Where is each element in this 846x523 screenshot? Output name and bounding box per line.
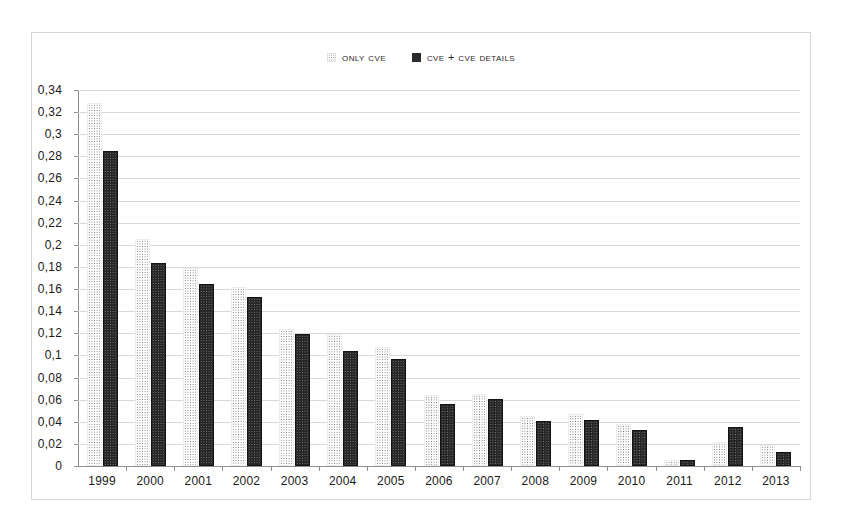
bar bbox=[151, 263, 166, 466]
y-axis-tick-label: 0,02 bbox=[2, 437, 62, 451]
x-axis-tick bbox=[704, 466, 705, 471]
bar bbox=[247, 297, 262, 466]
y-axis-tick-label: 0,18 bbox=[2, 260, 62, 274]
filled-square-icon bbox=[412, 53, 421, 62]
x-axis-tick bbox=[271, 466, 272, 471]
bar bbox=[343, 351, 358, 466]
x-axis-tick-label: 2012 bbox=[714, 474, 742, 488]
x-axis-tick bbox=[800, 466, 801, 471]
x-axis-tick bbox=[656, 466, 657, 471]
bar bbox=[231, 287, 246, 466]
bar bbox=[568, 414, 583, 466]
bar bbox=[183, 268, 198, 466]
x-axis-tick bbox=[559, 466, 560, 471]
bar-group bbox=[78, 90, 800, 466]
x-axis-tick-label: 2009 bbox=[570, 474, 598, 488]
x-axis-tick-label: 2005 bbox=[377, 474, 405, 488]
y-axis-tick-label: 0,3 bbox=[2, 127, 62, 141]
x-axis-tick bbox=[126, 466, 127, 471]
x-axis-tick bbox=[511, 466, 512, 471]
x-axis-tick-label: 2004 bbox=[329, 474, 357, 488]
bar bbox=[135, 239, 150, 466]
x-axis-tick bbox=[463, 466, 464, 471]
x-axis-tick-label: 2000 bbox=[136, 474, 164, 488]
dotted-square-icon bbox=[327, 53, 336, 62]
x-axis-tick-label: 2003 bbox=[281, 474, 309, 488]
y-axis-tick-label: 0,22 bbox=[2, 216, 62, 230]
bar bbox=[424, 395, 439, 466]
bar bbox=[776, 452, 791, 466]
x-axis-tick-label: 2010 bbox=[618, 474, 646, 488]
bar bbox=[712, 442, 727, 466]
bar bbox=[391, 359, 406, 466]
y-axis-tick-label: 0,28 bbox=[2, 149, 62, 163]
legend-item-label: CVE + CVE Details bbox=[427, 51, 515, 63]
bar bbox=[520, 416, 535, 466]
x-axis-tick bbox=[752, 466, 753, 471]
bar bbox=[87, 103, 102, 466]
chart-legend: Only CVECVE + CVE Details bbox=[32, 51, 810, 63]
y-axis-tick-label: 0,2 bbox=[2, 238, 62, 252]
x-axis-tick-label: 2011 bbox=[666, 474, 693, 488]
y-axis-tick-label: 0,26 bbox=[2, 171, 62, 185]
x-axis-line bbox=[78, 466, 800, 467]
x-axis-tick-label: 2001 bbox=[185, 474, 213, 488]
chart-screenshot: Only CVECVE + CVE Details 19992000200120… bbox=[0, 0, 846, 523]
y-axis-tick-label: 0,16 bbox=[2, 282, 62, 296]
y-axis-tick-label: 0,1 bbox=[2, 348, 62, 362]
x-axis-tick bbox=[415, 466, 416, 471]
legend-item[interactable]: Only CVE bbox=[327, 51, 386, 63]
x-axis-tick-label: 1999 bbox=[88, 474, 116, 488]
y-axis-tick-label: 0,24 bbox=[2, 194, 62, 208]
x-axis-tick bbox=[607, 466, 608, 471]
bar bbox=[440, 404, 455, 466]
bar bbox=[279, 329, 294, 466]
x-axis-labels: 1999200020012002200320042005200620072008… bbox=[78, 474, 800, 494]
bar bbox=[295, 334, 310, 466]
x-axis-tick-label: 2013 bbox=[762, 474, 790, 488]
plot-area bbox=[78, 90, 800, 466]
bar bbox=[488, 399, 503, 466]
bar bbox=[584, 420, 599, 466]
legend-item-label: Only CVE bbox=[342, 51, 386, 63]
y-axis-tick-label: 0,14 bbox=[2, 304, 62, 318]
y-axis-tick-label: 0,08 bbox=[2, 371, 62, 385]
y-axis-tick-label: 0,32 bbox=[2, 105, 62, 119]
x-axis-tick-label: 2006 bbox=[425, 474, 453, 488]
bar bbox=[327, 334, 342, 466]
y-axis-tick-label: 0,34 bbox=[2, 83, 62, 97]
bar bbox=[760, 445, 775, 466]
y-axis-tick-label: 0,04 bbox=[2, 415, 62, 429]
x-axis-tick-label: 2002 bbox=[233, 474, 261, 488]
y-axis-tick-label: 0,06 bbox=[2, 393, 62, 407]
bar bbox=[375, 347, 390, 466]
x-axis-tick-label: 2008 bbox=[522, 474, 550, 488]
y-axis-tick-label: 0 bbox=[2, 459, 62, 473]
x-axis-tick-label: 2007 bbox=[473, 474, 501, 488]
x-axis-tick bbox=[367, 466, 368, 471]
bar bbox=[103, 151, 118, 466]
bar bbox=[728, 427, 743, 466]
y-axis-tick-label: 0,12 bbox=[2, 326, 62, 340]
bar bbox=[616, 424, 631, 466]
bar bbox=[199, 284, 214, 466]
bar bbox=[472, 394, 487, 466]
bar bbox=[536, 421, 551, 466]
legend-item[interactable]: CVE + CVE Details bbox=[412, 51, 515, 63]
x-axis-tick bbox=[174, 466, 175, 471]
x-axis-tick bbox=[222, 466, 223, 471]
x-axis-tick bbox=[319, 466, 320, 471]
bar bbox=[632, 430, 647, 466]
